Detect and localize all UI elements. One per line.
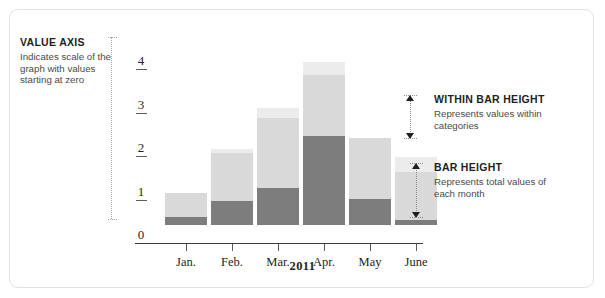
- x-axis-line: [135, 243, 423, 244]
- y-axis-tick-rule: [136, 69, 147, 70]
- bar-segment-upper: [303, 75, 345, 136]
- bar-segment-upper: [211, 153, 253, 201]
- x-axis-tick: [416, 244, 417, 251]
- x-axis-tick: [278, 244, 279, 251]
- annotation-within-bar-height: WITHIN BAR HEIGHT Represents values with…: [434, 93, 566, 131]
- annotation-within-bar-height-body: Represents values within categories: [434, 108, 566, 131]
- bar-segment-upper: [165, 193, 207, 217]
- y-axis-tick: 0: [128, 228, 154, 244]
- x-axis-tick: [232, 244, 233, 251]
- bar-segment-lower: [165, 217, 207, 225]
- annotation-bar-height-body: Represents total values of each month: [434, 176, 566, 199]
- y-axis-tick-rule: [136, 113, 147, 114]
- y-axis-tick: 1: [128, 185, 154, 201]
- value-axis-bracket-bottom-cap: [108, 219, 117, 220]
- x-axis-tick: [186, 244, 187, 251]
- bar-may: [349, 138, 391, 225]
- value-axis-bracket-line: [111, 37, 112, 219]
- bar-jan: [165, 193, 207, 225]
- bar-segment-lower: [395, 220, 437, 225]
- x-axis-tick: [324, 244, 325, 251]
- bar-height-dimension-arrow: [412, 163, 421, 218]
- y-axis-tick-label: 1: [128, 185, 154, 198]
- value-axis-bracket-top-cap: [108, 37, 117, 38]
- bar-segment-lower: [211, 201, 253, 225]
- infographic-bar-chart-explainer: VALUE AXIS Indicates scale of the graph …: [0, 0, 605, 298]
- annotation-bar-height-title: BAR HEIGHT: [434, 161, 566, 173]
- dimension-line: [416, 168, 417, 213]
- bar-group: [165, 50, 408, 225]
- annotation-within-bar-height-title: WITHIN BAR HEIGHT: [434, 93, 566, 105]
- bar-segment-lower: [257, 188, 299, 225]
- bar-segment-top: [257, 108, 299, 119]
- bar-apr: [303, 62, 345, 225]
- dimension-bottom-cap: [410, 217, 423, 218]
- bar-segment-lower: [349, 199, 391, 225]
- dimension-bottom-cap: [404, 138, 417, 139]
- y-axis-tick-label: 2: [128, 141, 154, 154]
- annotation-value-axis-body: Indicates scale of the graph with values…: [20, 51, 112, 86]
- x-axis-tick: [370, 244, 371, 251]
- y-axis-tick-rule: [136, 156, 147, 157]
- bar-mar: [257, 108, 299, 225]
- bar-segment-lower: [303, 136, 345, 225]
- annotation-value-axis-title: VALUE AXIS: [20, 36, 112, 48]
- x-axis-title: 2011: [0, 259, 605, 274]
- y-axis-tick: 2: [128, 141, 154, 157]
- y-axis-tick: 3: [128, 98, 154, 114]
- bar-segment-top: [303, 62, 345, 75]
- bar-segment-upper: [257, 118, 299, 188]
- y-axis-tick-label: 4: [128, 54, 154, 67]
- arrow-up-icon: [412, 163, 420, 169]
- arrow-up-icon: [406, 95, 414, 101]
- bar-feb: [211, 149, 253, 225]
- dimension-line: [410, 100, 411, 134]
- chart-plot-area: 43210 Jan.Feb.Mar.Apr.MayJune: [128, 30, 408, 225]
- annotation-bar-height: BAR HEIGHT Represents total values of ea…: [434, 161, 566, 199]
- y-axis-tick-label: 3: [128, 98, 154, 111]
- y-axis-tick: 4: [128, 54, 154, 70]
- bar-segment-upper: [349, 138, 391, 199]
- y-axis-tick-rule: [136, 200, 147, 201]
- within-bar-height-dimension-arrow: [406, 95, 415, 139]
- annotation-value-axis: VALUE AXIS Indicates scale of the graph …: [20, 36, 112, 86]
- y-axis-tick-label: 0: [128, 228, 154, 241]
